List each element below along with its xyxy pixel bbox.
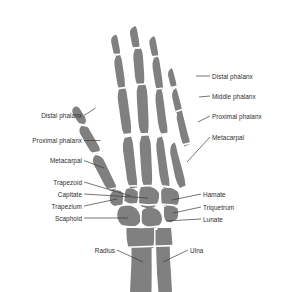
- middle-phalanx-index: [114, 55, 125, 89]
- label-triquetrum: Triquetrum: [203, 204, 234, 211]
- proximal-phalanx-thumb: [79, 125, 99, 154]
- proximal-phalanx-little: [177, 109, 190, 147]
- metacarpal-middle: [140, 136, 153, 188]
- label-trapezoid: Trapezoid: [0, 179, 82, 186]
- label-hamate: Hamate: [203, 191, 226, 198]
- label-trapezium: Trapezium: [0, 203, 82, 210]
- metacarpal-bones: [123, 136, 186, 189]
- middle-phalanx-middle: [133, 49, 144, 86]
- scaphoid-bone: [117, 205, 140, 227]
- label-distal-phalanx-little: Distal phalanx: [212, 73, 253, 80]
- label-distal-phalanx-thumb: Distal phalanx: [0, 112, 82, 119]
- metacarpal-ring: [156, 137, 169, 189]
- label-proximal-phalanx-thumb: Proximal phalanx: [0, 137, 82, 144]
- trapezoid-bone: [124, 188, 139, 204]
- leader-metacarpal-little: [187, 137, 210, 162]
- label-lunate: Lunate: [203, 216, 223, 223]
- label-metacarpal-little: Metacarpal: [212, 134, 244, 141]
- distal-phalanx-ring: [149, 36, 158, 58]
- proximal-phalanx-ring: [155, 88, 167, 135]
- middle-phalanx-ring: [152, 57, 162, 91]
- label-ulna: Ulna: [190, 247, 203, 254]
- distal-phalanx-little: [168, 68, 177, 89]
- label-proximal-phalanx-little: Proximal phalanx: [212, 113, 262, 120]
- label-scaphoid: Scaphoid: [0, 215, 82, 222]
- hand-skeleton-diagram: Distal phalanx Proximal phalanx Metacarp…: [0, 0, 287, 292]
- lunate-bone: [141, 208, 162, 228]
- metacarpal-little: [170, 143, 185, 189]
- metacarpal-index: [123, 137, 137, 189]
- label-metacarpal-thumb: Metacarpal: [0, 157, 82, 164]
- label-radius: Radius: [0, 247, 115, 254]
- distal-phalanx-middle: [130, 26, 139, 49]
- proximal-phalanx-middle: [137, 84, 149, 134]
- leader-distal-phalanx-thumb: [84, 108, 96, 116]
- proximal-phalanx-index: [118, 87, 131, 135]
- leader-middle-phalanx-little: [199, 96, 210, 97]
- distal-radius-flare: [126, 228, 154, 248]
- distal-ulna-flare: [157, 228, 172, 246]
- label-middle-phalanx-little: Middle phalanx: [212, 93, 256, 100]
- label-capitate: Capitate: [0, 191, 82, 198]
- leader-proximal-phalanx-little: [198, 116, 210, 122]
- forearm-bones: [126, 228, 172, 292]
- distal-phalanx-index: [111, 35, 120, 56]
